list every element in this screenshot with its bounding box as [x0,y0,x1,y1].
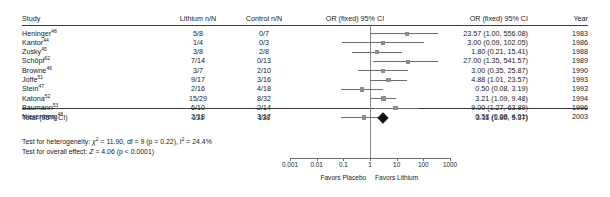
cell-control-ratio: 3/16 [233,75,295,84]
null-effect-line [370,25,371,160]
effect-size-marker [381,69,385,73]
total-or-text: 3.11 (1.80, 5.37) [424,113,528,122]
cell-year: 1989 [546,56,588,65]
effect-size-marker [375,50,379,54]
effect-size-marker [362,115,366,119]
cell-lithium-ratio: 9/17 [168,75,228,84]
column-header-or-text: OR (fixed) 95% CI [424,14,528,23]
column-header-lithium: Lithium n/N [168,14,228,23]
total-control: 138 [233,113,295,122]
axis-tick-label: 0.01 [310,161,322,168]
effect-size-marker [406,60,410,64]
cell-or-value: 3.00 (0.35, 25.87) [424,66,528,75]
effect-size-marker [393,106,397,110]
cell-study-name: Baumann53 [22,103,58,112]
axis-tick-label: 10 [393,161,400,168]
cell-lithium-ratio: 3/8 [168,47,228,56]
effect-body: = 4.06 (p < 0.0001) [94,148,155,155]
cell-study-name: Heninger48 [22,29,57,38]
cell-control-ratio: 2/14 [233,103,295,112]
total-label: Total (95% CI) [22,113,68,122]
effect-size-marker [360,87,364,91]
effect-size-marker [386,78,391,83]
cell-study-name: Katona52 [22,94,50,103]
cell-or-value: 0.50 (0.08, 3.19) [424,84,528,93]
axis-tick-label: 0.1 [339,161,348,168]
cell-control-ratio: 2/8 [233,47,295,56]
cell-lithium-ratio: 5/8 [168,29,228,38]
cell-year: 1983 [546,29,588,38]
cell-year: 1993 [546,84,588,93]
cell-lithium-ratio: 1/4 [168,38,228,47]
total-lithium: 131 [168,113,228,122]
cell-or-value: 4.88 (1.01, 23.57) [424,75,528,84]
cell-year: 1988 [546,47,588,56]
heterogeneity-body: = 11.90, df = 9 (p = 0.22), I [99,138,182,145]
effect-size-marker [405,32,409,36]
favors-lithium-label: Favors Lithium [375,174,418,181]
cell-lithium-ratio: 15/29 [168,94,228,103]
overall-effect-text: Test for overall effect: Z = 4.06 (p < 0… [22,148,154,155]
cell-or-value: 3.00 (0.09, 102.05) [424,38,528,47]
column-header-year: Year [546,14,588,23]
column-header-control: Control n/N [233,14,295,23]
cell-year: 1986 [546,38,588,47]
cell-year: 1993 [546,75,588,84]
cell-control-ratio: 0/7 [233,29,295,38]
cell-or-value: 9.00 (1.27, 63.89) [424,103,528,112]
axis-tick-label: 100 [418,161,429,168]
column-header-or-plot: OR (fixed) 95% CI [300,14,410,23]
cell-control-ratio: 8/32 [233,94,295,103]
cell-or-value: 3.21 (1.09, 9.48) [424,94,528,103]
pooled-effect-diamond [378,112,389,123]
heterogeneity-tail: = 24.4% [184,138,211,145]
cell-year: 1994 [546,94,588,103]
cell-control-ratio: 0/3 [233,38,295,47]
effect-size-marker [381,41,385,45]
column-header-study: Study [22,14,40,23]
forest-plot-figure: Study Lithium n/N Control n/N OR (fixed)… [0,0,610,197]
heterogeneity-prefix: Test for heterogeneity: [22,138,92,145]
effect-size-marker [381,96,386,101]
cell-year: 1996 [546,103,588,112]
cell-lithium-ratio: 6/10 [168,103,228,112]
cell-control-ratio: 0/13 [233,56,295,65]
cell-lithium-ratio: 2/16 [168,84,228,93]
cell-or-value: 23.57 (1.00, 556.08) [424,29,528,38]
effect-prefix: Test for overall effect: [22,148,89,155]
forest-plot-area [300,25,410,160]
axis-tick-label: 0.001 [282,161,298,168]
axis-tick-label: 1 [368,161,372,168]
cell-lithium-ratio: 7/14 [168,56,228,65]
favors-placebo-label: Favors Placebo [320,174,366,181]
cell-or-value: 1.80 (0.21, 15.41) [424,47,528,56]
cell-lithium-ratio: 3/7 [168,66,228,75]
heterogeneity-text: Test for heterogeneity: χ2 = 11.90, df =… [22,138,212,145]
cell-control-ratio: 2/10 [233,66,295,75]
cell-or-value: 27.00 (1.35, 541.57) [424,56,528,65]
cell-control-ratio: 4/18 [233,84,295,93]
cell-study-name: Stein47 [22,84,44,93]
cell-year: 1990 [546,66,588,75]
axis-tick-label: 1000 [443,161,457,168]
